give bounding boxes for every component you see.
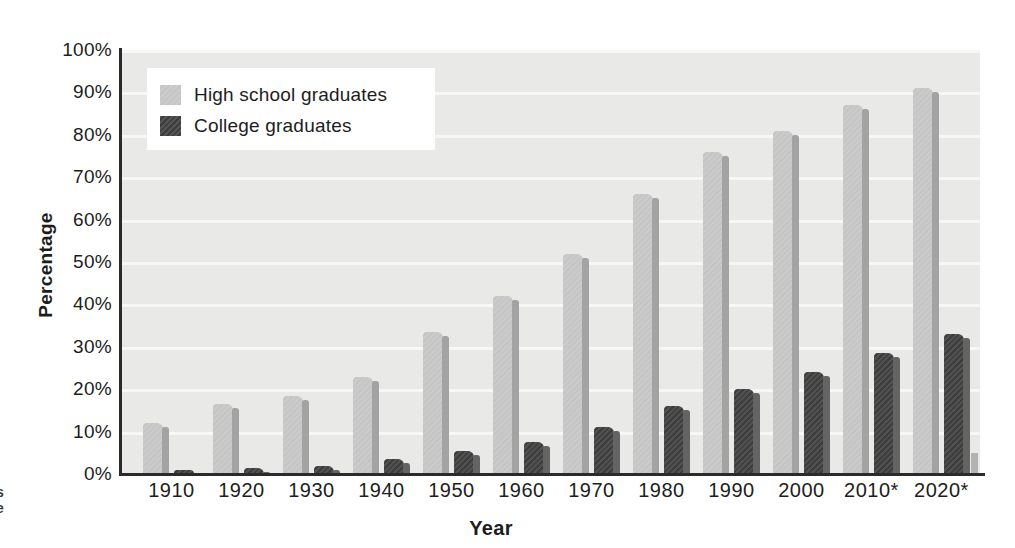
bar-side-shadow (512, 300, 519, 474)
bar-college-1970 (594, 427, 620, 474)
y-tick-10pct: 10% (0, 420, 112, 444)
y-tick-90pct: 90% (0, 80, 112, 104)
y-axis-title: Percentage (34, 193, 58, 338)
bar-face (703, 152, 723, 474)
bar-face (353, 377, 373, 475)
legend: High school graduates College graduates (147, 68, 435, 150)
x-tick-2020: 2020* (897, 479, 987, 502)
bar-highschool-1940 (353, 377, 379, 475)
bar-face (734, 389, 754, 474)
high-school-swatch-icon (160, 85, 181, 105)
bar-highschool-1910 (143, 423, 169, 474)
bar-side-shadow (862, 109, 869, 474)
bar-face (524, 442, 544, 474)
college-swatch-icon (160, 116, 181, 136)
x-axis-title: Year (411, 517, 571, 540)
bar-highschool-2020 (913, 88, 939, 474)
bar-college-2010 (874, 353, 900, 474)
bar-highschool-1970 (563, 254, 589, 475)
clipped-page-text: s (0, 484, 4, 500)
bar-face (143, 423, 163, 474)
bar-face (633, 194, 653, 474)
bar-college-2000 (804, 372, 830, 474)
legend-label-high-school: High school graduates (194, 84, 387, 106)
bar-side-shadow (753, 393, 760, 474)
bar-face (283, 396, 303, 474)
bar-side-shadow (613, 431, 620, 474)
bar-highschool-1960 (493, 296, 519, 474)
y-tick-70pct: 70% (0, 165, 112, 189)
bar-college-1950 (454, 451, 480, 474)
bar-side-shadow (162, 427, 169, 474)
bar-highschool-1980 (633, 194, 659, 474)
bar-face (384, 459, 404, 474)
bar-side-shadow (932, 92, 939, 474)
bar-face (594, 427, 614, 474)
bar-face (874, 353, 894, 474)
bar-highschool-1920 (213, 404, 239, 474)
bar-side-shadow (893, 357, 900, 474)
bar-side-shadow (582, 258, 589, 475)
bar-side-shadow (372, 381, 379, 475)
bar-side-shadow (792, 135, 799, 474)
bar-college-1980 (664, 406, 690, 474)
bar-face (454, 451, 474, 474)
legend-label-college: College graduates (194, 115, 352, 137)
legend-item-college: College graduates (160, 114, 435, 138)
y-tick-30pct: 30% (0, 335, 112, 359)
bar-side-shadow (232, 408, 239, 474)
y-tick-20pct: 20% (0, 377, 112, 401)
bar-face (804, 372, 824, 474)
bar-side-shadow (302, 400, 309, 474)
bar-face (664, 406, 684, 474)
y-tick-0pct: 0% (0, 462, 112, 486)
bar-face (913, 88, 933, 474)
bar-side-shadow (963, 338, 970, 474)
bar-side-shadow (543, 446, 550, 474)
bar-college-1990 (734, 389, 760, 474)
bar-highschool-1950 (423, 332, 449, 474)
bar-face (563, 254, 583, 475)
chart-figure: 100%90%80%70%60%50%40%30%20%10%0% 191019… (0, 0, 1015, 548)
y-axis-line (119, 48, 122, 476)
bar-side-shadow (473, 455, 480, 474)
bar-side-shadow (683, 410, 690, 474)
x-axis-end-tick (971, 453, 978, 473)
bar-face (213, 404, 233, 474)
bar-face (423, 332, 443, 474)
bar-face (773, 131, 793, 474)
bar-highschool-1930 (283, 396, 309, 474)
bar-side-shadow (442, 336, 449, 474)
bar-college-1960 (524, 442, 550, 474)
bar-side-shadow (823, 376, 830, 474)
bar-face (493, 296, 513, 474)
bar-side-shadow (722, 156, 729, 474)
x-tick-labels: 1910192019301940195019601970198019902000… (122, 479, 980, 505)
bar-face (944, 334, 964, 474)
legend-item-high-school: High school graduates (160, 83, 435, 107)
y-tick-100pct: 100% (0, 38, 112, 62)
bar-face (843, 105, 863, 474)
bar-highschool-2010 (843, 105, 869, 474)
clipped-page-text: e (0, 500, 4, 516)
x-axis-line (119, 473, 985, 476)
bar-highschool-1990 (703, 152, 729, 474)
bar-side-shadow (652, 198, 659, 474)
bar-highschool-2000 (773, 131, 799, 474)
bar-college-2020 (944, 334, 970, 474)
y-tick-80pct: 80% (0, 123, 112, 147)
bar-college-1940 (384, 459, 410, 474)
